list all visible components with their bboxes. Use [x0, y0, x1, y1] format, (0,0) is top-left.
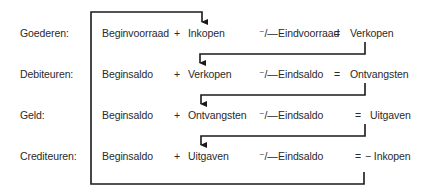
row-label: Crediteuren: [20, 150, 77, 162]
minus-sign: ⁻/— [259, 150, 278, 162]
end-term: Eindsaldo [278, 150, 323, 162]
row-label: Debiteuren: [20, 68, 73, 80]
middle-term: Ontvangsten [188, 109, 246, 121]
middle-term: Inkopen [188, 27, 225, 39]
equals-sign: = [334, 68, 340, 80]
plus-sign: + [174, 150, 180, 162]
equals-sign: = [355, 150, 361, 162]
minus-sign: ⁻/— [259, 68, 278, 80]
connector-verkopen [200, 42, 365, 63]
middle-term: Verkopen [188, 68, 232, 80]
plus-sign: + [174, 68, 180, 80]
equals-sign: = [334, 27, 340, 39]
minus-sign: ⁻/— [259, 27, 278, 39]
begin-term: Beginsaldo [102, 150, 153, 162]
end-term: Eindsaldo [278, 109, 323, 121]
equals-sign: = [355, 109, 361, 121]
end-term: Eindvoorraad [278, 27, 339, 39]
end-term: Eindsaldo [278, 68, 323, 80]
begin-term: Beginvoorraad [102, 27, 169, 39]
connector-uitgaven [201, 124, 365, 145]
plus-sign: + [174, 109, 180, 121]
result-term: Uitgaven [370, 109, 411, 121]
result-term: Verkopen [350, 27, 394, 39]
result-term: − Inkopen [365, 150, 411, 162]
begin-term: Beginsaldo [102, 109, 153, 121]
connector-ontvangsten [201, 83, 365, 104]
minus-sign: ⁻/— [259, 109, 278, 121]
result-term: Ontvangsten [350, 68, 408, 80]
middle-term: Uitgaven [188, 150, 229, 162]
begin-term: Beginsaldo [102, 68, 153, 80]
row-label: Geld: [20, 109, 45, 121]
row-label: Goederen: [20, 27, 69, 39]
plus-sign: + [174, 27, 180, 39]
